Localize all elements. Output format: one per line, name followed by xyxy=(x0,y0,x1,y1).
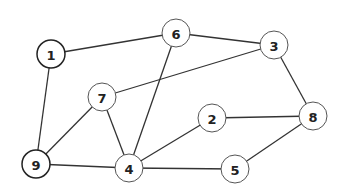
graph-diagram: 123456789 xyxy=(0,0,347,196)
node-label: 7 xyxy=(97,91,106,106)
node-1: 1 xyxy=(37,40,65,68)
node-label: 8 xyxy=(308,110,317,125)
edge-3-7 xyxy=(102,45,274,97)
node-6: 6 xyxy=(162,19,190,47)
node-label: 1 xyxy=(46,48,55,63)
node-label: 6 xyxy=(171,27,180,42)
graph-canvas: 123456789 xyxy=(0,0,347,196)
edge-4-5 xyxy=(129,168,235,169)
node-8: 8 xyxy=(299,102,327,130)
node-3: 3 xyxy=(260,31,288,59)
edge-6-4 xyxy=(129,33,176,168)
node-label: 5 xyxy=(230,163,239,178)
edge-6-3 xyxy=(176,33,274,45)
edge-1-6 xyxy=(51,33,176,54)
node-7: 7 xyxy=(88,83,116,111)
node-label: 9 xyxy=(31,158,40,173)
edge-2-8 xyxy=(212,116,313,118)
node-2: 2 xyxy=(198,104,226,132)
node-layer: 123456789 xyxy=(22,19,327,183)
edge-1-9 xyxy=(36,54,51,164)
node-label: 2 xyxy=(207,112,216,127)
node-5: 5 xyxy=(221,155,249,183)
node-9: 9 xyxy=(22,150,50,178)
node-4: 4 xyxy=(115,154,143,182)
node-label: 4 xyxy=(124,162,133,177)
node-label: 3 xyxy=(269,39,278,54)
edge-4-2 xyxy=(129,118,212,168)
